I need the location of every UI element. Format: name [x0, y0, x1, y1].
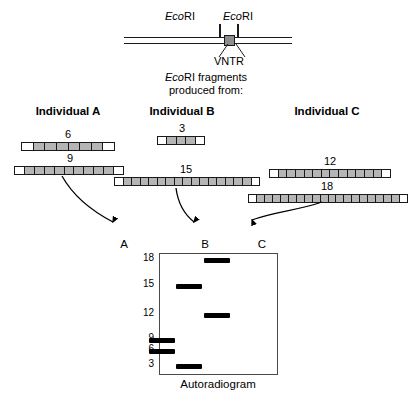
autoradiogram-gel — [159, 253, 278, 375]
gel-lane-label-a: A — [99, 238, 149, 250]
individual-a-fragment-6-label: 6 — [20, 128, 116, 140]
gel-size-marker-12: 12 — [132, 307, 154, 318]
loading-arrows — [0, 170, 412, 240]
individual-c-fragment-12-label: 12 — [268, 155, 392, 167]
arrow-b-to-lane-b — [176, 188, 194, 222]
arrow-c-to-lane-c — [252, 202, 322, 220]
gel-lane-label-b: B — [180, 238, 230, 250]
ecori-italic-right: Eco — [223, 10, 242, 22]
gel-band-c-12 — [204, 313, 230, 318]
individual-b-fragment-3-label: 3 — [152, 122, 212, 134]
individual-c-title: Individual C — [272, 105, 382, 117]
dna-double-strand — [124, 37, 292, 44]
caption-italic-eco: Eco — [165, 71, 184, 83]
fragments-caption-line2: produced from: — [131, 84, 281, 97]
arrow-a-to-lane-a — [62, 176, 113, 222]
autoradiogram-caption: Autoradiogram — [148, 378, 288, 390]
fragments-caption-line1: EcoRI fragments — [131, 71, 281, 84]
individual-b-title: Individual B — [127, 105, 237, 117]
dna-restriction-map: EcoRI EcoRI VNTR EcoRI fragments produce… — [0, 0, 412, 100]
gel-size-marker-15: 15 — [132, 278, 154, 289]
individual-a-fragment-9-label: 9 — [15, 152, 125, 164]
individual-a-fragment-6-bar — [21, 142, 115, 151]
gel-lane-label-c: C — [237, 238, 287, 250]
ecori-rest-left: RI — [184, 10, 195, 22]
gel-size-marker-6: 6 — [132, 343, 154, 354]
gel-size-marker-3: 3 — [132, 358, 154, 369]
individual-a-title: Individual A — [8, 105, 128, 117]
gel-band-b-3 — [176, 364, 202, 369]
gel-band-c-18 — [204, 258, 230, 263]
gel-size-marker-18: 18 — [132, 252, 154, 263]
ecori-rest-right: RI — [242, 10, 253, 22]
ecori-italic-left: Eco — [165, 10, 184, 22]
vntr-label: VNTR — [179, 55, 279, 67]
ecori-site-label-right: EcoRI — [210, 10, 266, 22]
gel-band-b-15 — [176, 284, 202, 289]
individual-b-fragment-3-bar — [157, 136, 205, 145]
gel-size-marker-9: 9 — [132, 332, 154, 343]
ecori-site-label-left: EcoRI — [152, 10, 208, 22]
caption-rest: RI fragments — [184, 71, 247, 83]
